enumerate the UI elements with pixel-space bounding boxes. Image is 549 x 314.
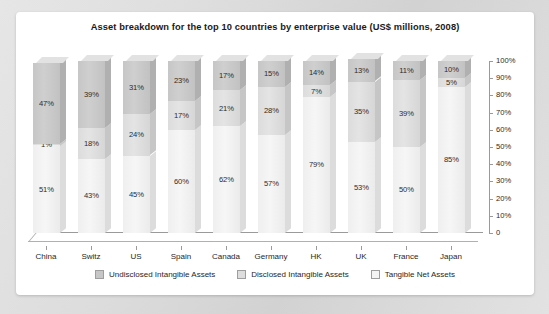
bar-stack: 51%1%47% xyxy=(33,61,60,233)
legend-item[interactable]: Disclosed Intangible Assets xyxy=(237,270,348,279)
bar-segment-side-face xyxy=(105,123,111,159)
bar-segment-side-face xyxy=(465,82,471,233)
category-axis-tick-mark xyxy=(46,246,47,250)
bar-group: 62%21%17% xyxy=(213,61,246,233)
value-axis-tick-mark xyxy=(489,95,493,96)
category-axis-tick-mark xyxy=(316,246,317,250)
plot-area: 51%1%47%43%18%39%45%24%31%60%17%23%62%21… xyxy=(28,44,522,249)
bar-segment-label: 60% xyxy=(168,178,195,186)
category-axis-tick-mark xyxy=(271,246,272,250)
bar-segment-label: 24% xyxy=(123,131,150,139)
legend-swatch-icon xyxy=(95,270,104,279)
bar-segment-label: 11% xyxy=(393,67,420,75)
category-axis-label: Spain xyxy=(157,252,205,261)
bar-stack: 85%5%10% xyxy=(438,61,465,233)
bar-segment-label: 14% xyxy=(303,69,330,77)
category-axis-label: US xyxy=(112,252,160,261)
value-axis-tick-mark xyxy=(489,181,493,182)
legend-swatch-icon xyxy=(371,270,380,279)
axis-front-line xyxy=(28,241,478,242)
bar-stack: 79%7%14% xyxy=(303,61,330,233)
bar-segment-side-face xyxy=(105,154,111,233)
bar-segment-side-face xyxy=(195,96,201,130)
value-axis-tick-label: 80% xyxy=(496,90,511,99)
bar-segment-label: 62% xyxy=(213,176,240,184)
bar-group: 51%1%47% xyxy=(33,61,66,233)
legend-label: Disclosed Intangible Assets xyxy=(251,270,348,279)
bar-segment-side-face xyxy=(105,56,111,128)
value-axis-tick-label: 50% xyxy=(496,142,511,151)
category-axis-label: Japan xyxy=(427,252,475,261)
legend-item[interactable]: Tangible Net Assets xyxy=(371,270,455,279)
bar-segment-label: 21% xyxy=(213,105,240,113)
value-axis-tick-label: 60% xyxy=(496,125,511,134)
bar-stack: 45%24%31% xyxy=(123,61,150,233)
bar-group: 79%7%14% xyxy=(303,61,336,233)
bar-series-container: 51%1%47%43%18%39%45%24%31%60%17%23%62%21… xyxy=(33,61,483,233)
category-axis-label: Switz xyxy=(67,252,115,261)
category-axis: ChinaSwitzUSSpainCanadaGermanyHKUKFrance… xyxy=(33,252,483,266)
value-axis-tick-label: 70% xyxy=(496,108,511,117)
category-axis-label: HK xyxy=(292,252,340,261)
bar-stack: 62%21%17% xyxy=(213,61,240,233)
category-axis-tick-mark xyxy=(91,246,92,250)
bar-segment-label: 53% xyxy=(348,184,375,192)
bar-segment-label: 17% xyxy=(213,72,240,80)
bar-stack: 53%35%13% xyxy=(348,61,375,233)
bar-segment-side-face xyxy=(150,151,156,233)
bar-segment-label: 43% xyxy=(78,192,105,200)
category-axis-label: Canada xyxy=(202,252,250,261)
bar-segment-label: 39% xyxy=(393,110,420,118)
legend-item[interactable]: Undisclosed Intangible Assets xyxy=(95,270,215,279)
value-axis-tick-mark xyxy=(489,147,493,148)
category-axis-tick-mark xyxy=(361,246,362,250)
value-axis-tick-mark xyxy=(489,216,493,217)
value-axis-tick-label: 0 xyxy=(496,228,500,237)
bar-segment-side-face xyxy=(240,56,246,90)
bar-segment-label: 18% xyxy=(78,140,105,148)
bar-segment-label: 15% xyxy=(258,70,285,78)
bar-segment-side-face xyxy=(285,82,291,135)
value-axis: 010%20%30%40%50%60%70%80%90%100% xyxy=(489,61,529,233)
bar-group: 60%17%23% xyxy=(168,61,201,233)
legend-label: Undisclosed Intangible Assets xyxy=(109,270,215,279)
bar-segment-side-face xyxy=(240,122,246,233)
bar-segment-side-face xyxy=(60,58,66,144)
bar-stack: 50%39%11% xyxy=(393,61,420,233)
chart-panel: Asset breakdown for the top 10 countries… xyxy=(16,12,534,295)
category-axis-tick-mark xyxy=(136,246,137,250)
bar-segment-side-face xyxy=(375,77,381,142)
bar-segment-side-face xyxy=(195,125,201,233)
value-axis-tick-mark xyxy=(489,78,493,79)
bar-group: 43%18%39% xyxy=(78,61,111,233)
bar-segment-side-face xyxy=(195,56,201,100)
bar-segment-label: 51% xyxy=(33,186,60,194)
category-axis-tick-mark xyxy=(406,246,407,250)
bar-segment-side-face xyxy=(150,56,156,114)
bar-segment-label: 17% xyxy=(168,112,195,120)
category-axis-label: Germany xyxy=(247,252,295,261)
bar-segment-side-face xyxy=(150,110,156,156)
value-axis-tick-mark xyxy=(489,164,493,165)
bar-segment-label: 7% xyxy=(303,88,330,96)
chart-legend: Undisclosed Intangible AssetsDisclosed I… xyxy=(16,270,534,279)
bar-segment-label: 28% xyxy=(258,107,285,115)
value-axis-tick-label: 10% xyxy=(496,211,511,220)
bar-segment-label: 50% xyxy=(393,186,420,194)
bar-segment-label: 85% xyxy=(438,156,465,164)
category-axis-label: France xyxy=(382,252,430,261)
value-axis-tick-label: 40% xyxy=(496,159,511,168)
bar-stack: 43%18%39% xyxy=(78,61,105,233)
bar-segment-label: 35% xyxy=(348,108,375,116)
bar-segment-label: 23% xyxy=(168,77,195,85)
value-axis-tick-label: 90% xyxy=(496,73,511,82)
bar-segment-label: 13% xyxy=(348,67,375,75)
value-axis-tick-label: 30% xyxy=(496,176,511,185)
bar-segment-side-face xyxy=(375,137,381,233)
bar-segment-side-face xyxy=(60,141,66,233)
bar-segment-label: 57% xyxy=(258,180,285,188)
bar-segment-label: 39% xyxy=(78,91,105,99)
category-axis-tick-mark xyxy=(226,246,227,250)
bar-segment-label: 47% xyxy=(33,100,60,108)
category-axis-tick-mark xyxy=(451,246,452,250)
